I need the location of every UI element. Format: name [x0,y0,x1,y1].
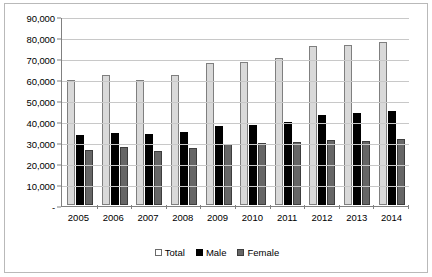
x-axis-tick-label-2013: 2013 [339,212,374,223]
legend-swatch-total-icon [155,249,162,256]
x-axis-tick-label-2011: 2011 [270,212,305,223]
y-axis-tick-mark [57,39,61,40]
y-axis-tick-label: 80,000 [27,34,55,45]
bar-male-2005 [76,135,84,205]
legend-item-female[interactable]: Female [237,247,279,258]
y-axis-tick-mark [57,165,61,166]
bar-female-2009 [224,144,232,205]
legend-item-male[interactable]: Male [196,247,227,258]
bar-female-2011 [293,142,301,205]
legend-label: Female [247,247,279,258]
x-axis-tick-label-2008: 2008 [165,212,200,223]
bar-group-2011 [271,18,306,205]
y-axis-tick-label: 40,000 [27,118,55,129]
gridline [62,18,409,19]
y-axis-tick-label: 90,000 [27,13,55,24]
x-axis-tick-label-2012: 2012 [305,212,340,223]
bar-total-2011 [275,58,283,205]
bar-female-2012 [327,140,335,205]
x-axis-tick-label-2006: 2006 [96,212,131,223]
bar-female-2005 [85,150,93,205]
x-axis-tick-label-2007: 2007 [131,212,166,223]
y-axis-tick-mark [57,60,61,61]
x-axis-tick-label-2014: 2014 [374,212,409,223]
x-axis-tick-mark [97,205,98,209]
bar-group-2010 [236,18,271,205]
gridline [62,60,409,61]
y-axis-tick-mark [57,123,61,124]
bar-total-2010 [240,62,248,205]
gridline [62,144,409,145]
bar-group-2009 [201,18,236,205]
x-axis-tick-mark [200,205,201,209]
bar-female-2010 [258,143,266,205]
y-axis-tick-mark [57,207,61,208]
bar-group-2013 [340,18,375,205]
bar-male-2014 [388,111,396,205]
bar-group-2012 [305,18,340,205]
gridline [62,102,409,103]
bar-group-2008 [167,18,202,205]
chart-container: -10,00020,00030,00040,00050,00060,00070,… [4,3,428,273]
x-axis-tick-label-2009: 2009 [200,212,235,223]
gridline [62,123,409,124]
bar-total-2013 [344,45,352,205]
x-axis-tick-mark [304,205,305,209]
bar-group-2005 [63,18,98,205]
gridline [62,81,409,82]
bar-female-2013 [362,141,370,205]
bar-male-2013 [353,113,361,205]
bar-group-2006 [98,18,133,205]
gridline [62,165,409,166]
y-axis-tick-mark [57,144,61,145]
x-axis-tick-label-2010: 2010 [235,212,270,223]
chart-legend: TotalMaleFemale [5,247,429,258]
legend-swatch-male-icon [196,249,203,256]
legend-item-total[interactable]: Total [155,247,185,258]
bar-female-2008 [189,148,197,205]
y-axis-tick-mark [57,186,61,187]
plot-area [61,18,409,207]
x-axis-tick-mark [339,205,340,209]
bar-group-2007 [132,18,167,205]
legend-label: Male [206,247,227,258]
bar-groups [63,18,409,205]
plot-wrapper: -10,00020,00030,00040,00050,00060,00070,… [5,4,427,272]
y-axis-tick-label: - [52,202,55,213]
x-axis-tick-mark [270,205,271,209]
gridline [62,186,409,187]
bar-total-2009 [206,63,214,205]
y-axis-tick-label: 10,000 [27,181,55,192]
y-axis-tick-label: 60,000 [27,76,55,87]
bar-female-2007 [154,151,162,205]
y-axis-tick-mark [57,102,61,103]
x-axis-tick-mark [166,205,167,209]
y-axis-tick-mark [57,81,61,82]
y-axis-tick-mark [57,18,61,19]
y-axis-labels: -10,00020,00030,00040,00050,00060,00070,… [5,18,55,207]
bar-female-2006 [120,147,128,205]
x-axis-tick-mark [235,205,236,209]
x-axis-tick-mark [373,205,374,209]
y-axis-tick-label: 20,000 [27,160,55,171]
legend-label: Total [165,247,185,258]
bar-group-2014 [374,18,409,205]
legend-swatch-female-icon [237,249,244,256]
x-axis-tick-label-2005: 2005 [61,212,96,223]
x-axis-tick-mark [408,205,409,209]
y-axis-tick-label: 70,000 [27,55,55,66]
bar-male-2011 [284,122,292,205]
bar-male-2012 [318,115,326,205]
gridline [62,39,409,40]
bar-total-2012 [309,46,317,205]
bar-female-2014 [397,139,405,205]
x-axis-tick-mark [131,205,132,209]
y-axis-tick-label: 30,000 [27,139,55,150]
y-axis-tick-label: 50,000 [27,97,55,108]
